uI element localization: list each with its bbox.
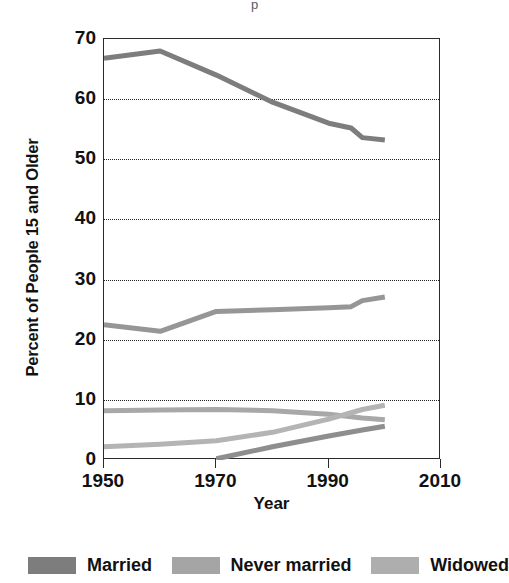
x-tick-mark <box>440 459 441 468</box>
x-tick-mark <box>328 459 329 468</box>
x-tick-label: 1970 <box>194 470 236 492</box>
legend-label: Never married <box>231 555 352 576</box>
series-svg <box>104 39 441 460</box>
x-tick-mark <box>103 459 104 468</box>
legend-swatch <box>371 557 419 574</box>
y-tick-label: 60 <box>52 88 96 107</box>
legend-label: Married <box>87 555 152 576</box>
y-tick-label: 30 <box>52 269 96 288</box>
series-line <box>216 426 384 458</box>
series-line <box>104 297 385 331</box>
x-tick-mark <box>215 459 216 468</box>
legend-item-never-married: Never married <box>172 555 352 576</box>
y-tick-label: 70 <box>52 28 96 47</box>
chart-legend: MarriedNever marriedWidowed <box>0 551 509 579</box>
y-tick-label: 40 <box>52 208 96 227</box>
chart-figure: p Percent of People 15 and Older 0102030… <box>0 0 509 583</box>
x-axis-title: Year <box>103 494 440 514</box>
y-tick-label: 10 <box>52 389 96 408</box>
legend-swatch <box>172 557 220 574</box>
legend-label: Widowed <box>430 555 509 576</box>
x-tick-label: 1990 <box>307 470 349 492</box>
series-line <box>104 51 385 140</box>
y-tick-label: 50 <box>52 148 96 167</box>
x-tick-label: 2010 <box>419 470 461 492</box>
y-tick-label: 20 <box>52 329 96 348</box>
legend-swatch <box>28 557 76 574</box>
plot-area <box>103 38 440 459</box>
legend-item-widowed: Widowed <box>371 555 509 576</box>
x-tick-label: 1950 <box>82 470 124 492</box>
legend-item-married: Married <box>28 555 152 576</box>
y-axis-title: Percent of People 15 and Older <box>23 58 42 458</box>
series-lines-layer <box>104 39 439 458</box>
